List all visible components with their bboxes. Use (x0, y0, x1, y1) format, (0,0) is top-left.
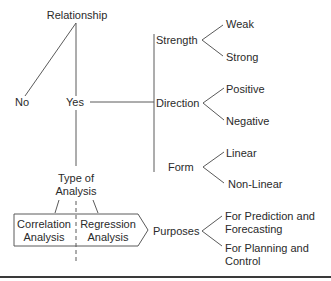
node-strong: Strong (226, 51, 258, 63)
node-purposes: Purposes (153, 225, 200, 237)
node-planning-1: For Planning and (225, 242, 309, 254)
node-form: Form (168, 161, 194, 173)
node-positive: Positive (226, 83, 265, 95)
node-yes: Yes (66, 96, 84, 108)
fork-direction (203, 88, 224, 120)
fork-purposes (202, 216, 222, 246)
fork-strength (202, 25, 223, 56)
node-prediction-1: For Prediction and (225, 210, 315, 222)
node-relationship: Relationship (47, 9, 108, 21)
node-direction: Direction (156, 97, 199, 109)
node-regression-2: Analysis (88, 231, 129, 243)
node-regression-1: Regression (80, 218, 136, 230)
relationship-analysis-diagram: Relationship No Yes Strength Weak Strong… (0, 0, 331, 281)
node-no: No (15, 96, 29, 108)
node-weak: Weak (226, 18, 254, 30)
node-strength: Strength (156, 34, 198, 46)
node-negative: Negative (226, 115, 269, 127)
edge-type-correlation (55, 200, 59, 213)
node-planning-2: Control (225, 255, 260, 267)
node-linear: Linear (226, 147, 257, 159)
node-non-linear: Non-Linear (228, 178, 283, 190)
edge-relationship-no (25, 23, 76, 96)
node-prediction-2: Forecasting (225, 223, 282, 235)
fork-form (203, 152, 224, 183)
edge-type-regression (93, 200, 98, 213)
node-type-of-analysis-1: Type of (58, 172, 95, 184)
node-type-of-analysis-2: Analysis (56, 185, 97, 197)
node-correlation-1: Correlation (17, 218, 71, 230)
node-correlation-2: Analysis (24, 231, 65, 243)
